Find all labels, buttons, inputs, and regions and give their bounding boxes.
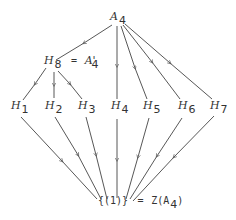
- node-symbol: H: [111, 99, 121, 112]
- node-subscript: 1: [22, 103, 29, 116]
- node-subscript: 8: [55, 58, 62, 71]
- node-symbol: H: [143, 99, 153, 112]
- node-trivial-subgroup: {(1)} = Z(A4): [98, 194, 183, 207]
- node-subscript: 4: [122, 103, 129, 116]
- node-a4: A4: [110, 10, 126, 23]
- equals-sign: =: [138, 195, 144, 206]
- node-symbol: A: [110, 10, 118, 23]
- node-h3: H3: [78, 99, 96, 112]
- edge-h3-bottom: [86, 117, 107, 199]
- node-symbol: H: [44, 54, 54, 67]
- edge-h8-h1: [23, 68, 46, 100]
- node-subscript: 4: [119, 14, 126, 27]
- node-h4: H4: [111, 99, 129, 112]
- node-h6: H6: [178, 99, 196, 112]
- node-symbol: H: [11, 99, 21, 112]
- node-h7: H7: [210, 99, 228, 112]
- close-paren: ): [177, 195, 183, 206]
- node-subscript: 3: [89, 103, 96, 116]
- node-symbol: H: [78, 99, 88, 112]
- center-label: Z(A: [151, 195, 169, 206]
- edge-a4-h5: [121, 26, 147, 99]
- edge-a4-h6: [123, 25, 180, 99]
- node-h2: H2: [45, 99, 63, 112]
- node-h8: H8 = A'4: [44, 54, 99, 67]
- node-symbol: H: [45, 99, 55, 112]
- node-h5: H5: [143, 99, 161, 112]
- trivial-set: {(1)}: [98, 195, 128, 206]
- edge-h2-bottom: [55, 117, 101, 199]
- node-subscript: 5: [154, 103, 161, 116]
- node-symbol: H: [178, 99, 188, 112]
- node-subscript: 2: [56, 103, 63, 116]
- node-subscript: 7: [221, 103, 228, 116]
- edge-a4-h7: [125, 24, 212, 99]
- node-subscript: 6: [189, 103, 196, 116]
- edge-h8-h3: [58, 71, 82, 99]
- center-subscript: 4: [170, 198, 177, 211]
- node-symbol: H: [210, 99, 220, 112]
- alias-subscript: 4: [92, 58, 99, 71]
- edge-h7-bottom: [133, 116, 214, 201]
- node-h1: H1: [11, 99, 29, 112]
- edge-h1-bottom: [21, 117, 97, 199]
- equals-sign: =: [71, 55, 77, 66]
